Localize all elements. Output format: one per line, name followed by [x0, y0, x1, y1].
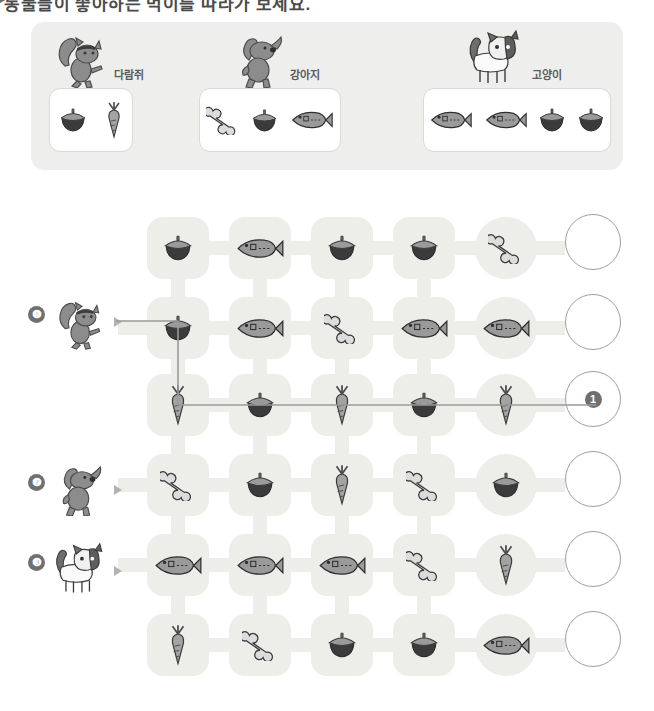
grid-connector-v [171, 279, 185, 297]
maze-cell-acorn[interactable] [311, 614, 373, 676]
legend-label-dog: 강아지 [290, 66, 320, 82]
grid-connector-v [171, 596, 185, 614]
fish-icon [153, 552, 203, 579]
maze-cell-fish[interactable] [229, 217, 291, 279]
maze-cell-acorn[interactable] [393, 614, 455, 676]
maze-cell-carrot[interactable] [147, 614, 209, 676]
grid-connector-v [335, 279, 349, 297]
maze-grid: 1 [0, 198, 654, 711]
legend-label-squirrel: 다람쥐 [114, 66, 144, 82]
carrot-icon [167, 383, 189, 427]
start-row-2: ❷ [28, 462, 153, 522]
fish-icon [290, 108, 334, 132]
grid-connector-v [417, 279, 431, 297]
grid-connector-v [335, 359, 349, 374]
acorn-icon [245, 391, 275, 419]
squirrel-icon [55, 36, 111, 88]
carrot-icon [331, 383, 353, 427]
start-arrow-icon [114, 566, 122, 576]
acorn-icon [409, 631, 439, 659]
grid-connector-v [171, 359, 185, 374]
maze-cell-bone[interactable] [393, 534, 455, 596]
grid-connector-v [253, 359, 267, 374]
grid-connector-v [253, 516, 267, 534]
maze-cell-fish[interactable] [393, 297, 455, 359]
goal-circle[interactable] [565, 611, 621, 667]
grid-connector-goal [533, 398, 565, 412]
squirrel-icon [56, 300, 108, 350]
maze-cell-acorn[interactable] [147, 297, 209, 359]
start-badge-3: ❸ [28, 554, 45, 571]
grid-connector-goal [533, 558, 565, 572]
bone-icon [206, 105, 240, 135]
maze-cell-carrot[interactable] [475, 534, 537, 596]
fish-icon [399, 315, 449, 342]
maze-cell-carrot[interactable] [311, 454, 373, 516]
grid-connector-v [253, 279, 267, 297]
acorn-icon [538, 107, 566, 133]
grid-connector-v [171, 436, 185, 454]
grid-connector-goal [533, 321, 565, 335]
fish-icon [235, 235, 285, 262]
maze-cell-fish[interactable] [475, 297, 537, 359]
grid-connector-v [335, 596, 349, 614]
legend-animal-cat: 고양이 [463, 30, 562, 88]
acorn-icon [409, 391, 439, 419]
goal-circle[interactable] [565, 451, 621, 507]
acorn-icon [59, 107, 87, 133]
start-badge-1: ❶ [28, 306, 45, 323]
goal-number-filled: 1 [585, 391, 602, 408]
maze-cell-acorn[interactable] [311, 217, 373, 279]
dog-icon [235, 34, 287, 88]
fish-icon [317, 552, 367, 579]
maze-cell-bone[interactable] [393, 454, 455, 516]
bone-icon [324, 312, 360, 344]
maze-cell-acorn[interactable] [475, 454, 537, 516]
fish-icon [429, 108, 473, 132]
maze-cell-fish[interactable] [229, 297, 291, 359]
maze-cell-acorn[interactable] [147, 217, 209, 279]
acorn-icon [245, 471, 275, 499]
maze-cell-fish[interactable] [147, 534, 209, 596]
start-row-3: ❸ [28, 540, 153, 606]
acorn-icon [163, 234, 193, 262]
bone-icon [406, 549, 442, 581]
acorn-icon [251, 108, 278, 133]
maze-cell-carrot[interactable] [475, 374, 537, 436]
start-arrow-icon [114, 485, 122, 495]
acorn-icon [163, 314, 193, 342]
goal-circle[interactable] [565, 294, 621, 350]
carrot-icon [167, 623, 189, 667]
maze-cell-bone[interactable] [311, 297, 373, 359]
maze-cell-bone[interactable] [147, 454, 209, 516]
maze-cell-fish[interactable] [311, 534, 373, 596]
start-badge-2: ❷ [28, 474, 45, 491]
maze-cell-carrot[interactable] [311, 374, 373, 436]
goal-circle[interactable] [565, 214, 621, 270]
grid-connector-v [417, 436, 431, 454]
grid-connector-goal [533, 638, 565, 652]
maze-cell-acorn[interactable] [393, 374, 455, 436]
goal-circle[interactable] [565, 531, 621, 587]
maze-cell-acorn[interactable] [229, 374, 291, 436]
maze-cell-fish[interactable] [475, 614, 537, 676]
maze-cell-fish[interactable] [229, 534, 291, 596]
maze-cell-acorn[interactable] [229, 454, 291, 516]
goal-circle[interactable]: 1 [565, 371, 621, 427]
maze-cell-carrot[interactable] [147, 374, 209, 436]
maze-cell-bone[interactable] [229, 614, 291, 676]
maze-cell-acorn[interactable] [393, 217, 455, 279]
grid-connector-goal [533, 478, 565, 492]
page-heading-text: 동물들이 좋아하는 먹이를 따라가 보세요. [4, 0, 311, 14]
cat-icon [50, 542, 112, 598]
legend-label-cat: 고양이 [532, 66, 562, 82]
start-row-1: ❶ [28, 296, 153, 356]
grid-connector-goal [533, 241, 565, 255]
page-heading: 동물들이 좋아하는 먹이를 따라가 보세요. [0, 0, 654, 14]
fish-icon [481, 315, 531, 342]
cat-icon [463, 30, 529, 88]
maze-cell-bone[interactable] [475, 217, 537, 279]
grid-connector-v [417, 596, 431, 614]
grid-connector-v [335, 436, 349, 454]
grid-connector-v [417, 516, 431, 534]
